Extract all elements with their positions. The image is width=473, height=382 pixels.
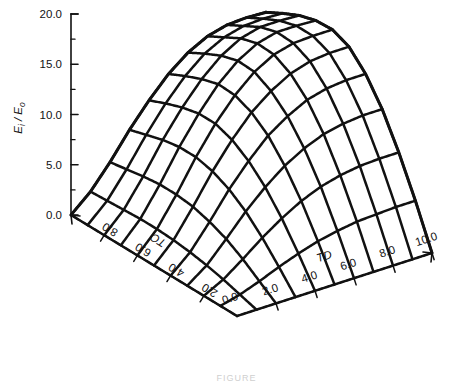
mesh-line-constant-td xyxy=(110,162,276,303)
z-tick-label: 15.0 xyxy=(40,58,62,70)
svg-text:Ei / Eo: Ei / Eo xyxy=(12,102,27,134)
mesh-line-constant-tc xyxy=(171,74,366,276)
z-tick-label: 5.0 xyxy=(46,159,62,171)
mesh-line-constant-tc xyxy=(88,13,283,225)
figure-3d-surface-plot: 0.05.010.015.020.0Ei / Eo2.04.06.08.0TC0… xyxy=(0,0,473,382)
surface-outline-right-edge xyxy=(266,12,432,253)
z-tick-label: 20.0 xyxy=(40,8,62,20)
figure-caption: FIGURE xyxy=(0,373,473,382)
z-tick-label: 10.0 xyxy=(40,109,62,121)
z-axis-title: Ei / Eo xyxy=(12,102,27,134)
surface-plot-canvas: 0.05.010.015.020.0Ei / Eo2.04.06.08.0TC0… xyxy=(0,0,473,382)
z-tick-label: 0.0 xyxy=(46,209,62,221)
